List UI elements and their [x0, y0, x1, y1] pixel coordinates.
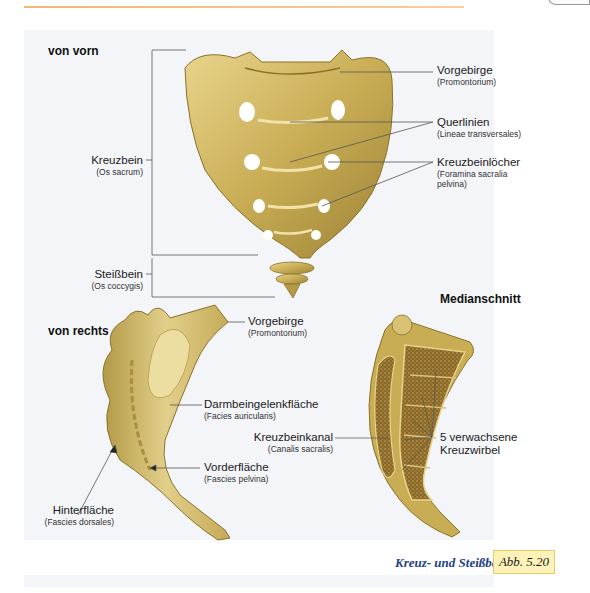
- sacrum-median-section: [369, 315, 474, 537]
- label-facies-auricularis: Darmbeingelenkfläche (Facies auricularis…: [204, 398, 318, 421]
- label-kreuzwirbel: 5 verwachsene Kreuzwirbel: [440, 431, 517, 457]
- label-promontory-front: Vorgebirge (Promontorium): [437, 64, 496, 87]
- view-title-right: von rechts: [48, 324, 109, 338]
- figure-number-badge: Abb. 5.20: [493, 550, 555, 574]
- label-lineae-transversales: Querlinien (Lineae transversales): [437, 116, 521, 139]
- label-foramina-sacralia: Kreuzbeinlöcher (Foramina sacralia pelvi…: [437, 156, 520, 189]
- sacrum-side-view: [103, 305, 230, 540]
- label-promontory-side: Vorgebirge (Promontorium): [248, 315, 307, 338]
- label-canalis-sacralis: Kreuzbeinkanal (Canalis sacralis): [230, 431, 333, 454]
- label-facies-dorsales: Hinterfläche (Fascies dorsales): [20, 504, 114, 527]
- label-os-coccygis: Steißbein (Os coccygis): [60, 268, 143, 291]
- sacrum-front-view: [185, 50, 393, 298]
- view-title-median: Medianschnitt: [440, 292, 521, 306]
- label-facies-pelvina: Vorderfläche (Fascies pelvina): [204, 461, 269, 484]
- label-os-sacrum: Kreuzbein (Os sacrum): [60, 154, 143, 177]
- view-title-front: von vorn: [48, 44, 99, 58]
